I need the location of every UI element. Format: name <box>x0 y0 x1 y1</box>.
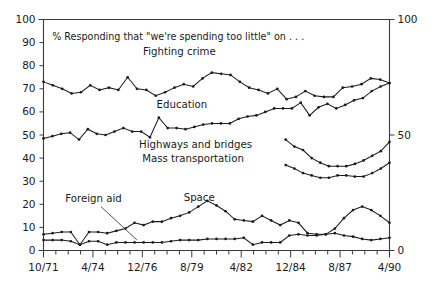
y-axis-left-tick-label: 20 <box>22 198 35 210</box>
data-point <box>70 92 73 95</box>
data-point <box>306 234 309 237</box>
data-point <box>328 176 331 179</box>
data-point <box>354 163 357 166</box>
data-point <box>224 238 227 241</box>
data-point <box>306 232 309 235</box>
data-point <box>388 141 391 144</box>
data-point <box>334 227 337 230</box>
data-point <box>224 210 227 213</box>
data-point <box>87 128 90 131</box>
series-labels-group: Fighting crimeEducationHighways and brid… <box>65 46 252 204</box>
data-point <box>220 122 223 125</box>
data-point <box>233 218 236 221</box>
data-point <box>343 234 346 237</box>
data-point <box>89 84 92 87</box>
data-point <box>60 132 63 135</box>
data-point <box>344 104 347 107</box>
data-point <box>362 97 365 100</box>
data-point <box>336 165 339 168</box>
data-point <box>42 81 45 84</box>
x-axis-tick-label: 4/82 <box>229 261 253 273</box>
chart-root: 1009080706050403020100 100500 10/714/741… <box>0 0 434 285</box>
data-point <box>279 241 282 244</box>
data-point <box>126 76 129 79</box>
data-point <box>248 86 251 89</box>
y-axis-left-tick-label: 100 <box>15 13 35 25</box>
data-point <box>371 172 374 175</box>
data-point <box>270 219 273 222</box>
data-point <box>242 236 245 239</box>
data-point <box>215 204 218 207</box>
y-axis-left-tick-label: 0 <box>29 244 36 256</box>
series-mass-transportation <box>284 161 391 179</box>
data-point <box>42 239 45 242</box>
data-point <box>133 221 136 224</box>
data-point <box>371 154 374 157</box>
data-point <box>379 78 382 81</box>
data-point <box>323 96 326 99</box>
data-point <box>282 107 285 110</box>
data-point <box>252 243 255 246</box>
data-point <box>142 224 145 227</box>
data-point <box>215 238 218 241</box>
x-axis-tick-label: 4/90 <box>378 261 402 273</box>
data-point <box>288 219 291 222</box>
data-point <box>106 243 109 246</box>
data-point <box>252 220 255 223</box>
data-point <box>69 231 72 234</box>
data-point <box>140 130 143 133</box>
data-point <box>310 157 313 160</box>
data-point <box>267 92 270 95</box>
data-point <box>133 241 136 244</box>
data-point <box>188 239 191 242</box>
data-point <box>179 239 182 242</box>
data-point <box>261 215 264 218</box>
data-point <box>369 77 372 80</box>
data-point <box>122 127 125 130</box>
data-point <box>115 230 118 233</box>
series-polyline <box>286 140 390 167</box>
data-point <box>98 89 101 92</box>
data-point <box>124 241 127 244</box>
x-axis-tick-label: 12/76 <box>127 261 158 273</box>
x-axis-tick-label: 4/74 <box>81 261 105 273</box>
data-point <box>361 238 364 241</box>
y-axis-right-labels: 100500 <box>398 13 418 256</box>
data-point <box>237 117 240 120</box>
data-point <box>276 87 279 90</box>
data-point <box>354 175 357 178</box>
x-axis-labels: 10/714/7412/768/794/8212/848/874/90 <box>28 261 401 273</box>
data-point <box>69 240 72 243</box>
data-point <box>284 164 287 167</box>
data-point <box>352 209 355 212</box>
data-point <box>317 106 320 109</box>
y-axis-left-tick-label: 70 <box>22 82 35 94</box>
data-point <box>370 209 373 212</box>
data-point <box>242 219 245 222</box>
data-point <box>51 232 54 235</box>
data-point <box>79 243 82 246</box>
data-point <box>151 220 154 223</box>
data-point <box>88 240 91 243</box>
data-point <box>326 102 329 105</box>
data-point <box>97 240 100 243</box>
data-point <box>353 99 356 102</box>
data-point <box>270 241 273 244</box>
data-point <box>380 167 383 170</box>
data-point <box>78 138 81 141</box>
series-education <box>42 82 391 141</box>
data-point <box>220 72 223 75</box>
y-axis-right-tick-label: 50 <box>398 129 411 141</box>
data-point <box>201 77 204 80</box>
data-point <box>273 107 276 110</box>
y-axis-left-tick-label: 10 <box>22 221 35 233</box>
data-point <box>279 224 282 227</box>
data-point <box>257 89 260 92</box>
data-point <box>261 241 264 244</box>
foreign-aid-leader-line <box>101 207 137 240</box>
data-point <box>210 71 213 74</box>
data-point <box>302 172 305 175</box>
data-point <box>341 86 344 89</box>
data-point <box>173 86 176 89</box>
data-point <box>332 96 335 99</box>
